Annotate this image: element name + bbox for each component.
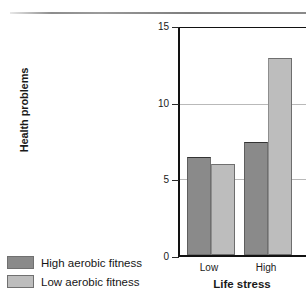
legend-item-high-aerobic-fitness: High aerobic fitness <box>7 254 147 271</box>
y-tick-mark-5 <box>172 180 179 181</box>
legend-label-high-fitness: High aerobic fitness <box>41 257 142 269</box>
x-tick-label-low: Low <box>179 262 239 273</box>
bar-high-stress-low-fitness <box>268 58 292 255</box>
bar-low-stress-high-fitness <box>187 157 211 255</box>
bar-low-stress-low-fitness <box>211 164 235 255</box>
legend-swatch-high-fitness <box>7 256 34 269</box>
plot-area <box>178 27 306 257</box>
y-tick-label-10: 10 <box>141 98 169 109</box>
x-axis-title: Life stress <box>178 278 306 290</box>
legend-swatch-low-fitness <box>7 275 34 288</box>
bar-high-stress-high-fitness <box>244 142 268 256</box>
y-tick-mark-0 <box>172 257 179 258</box>
chart-legend: High aerobic fitness Low aerobic fitness <box>7 254 147 292</box>
y-tick-mark-10 <box>172 104 179 105</box>
y-axis-title: Health problems <box>18 50 30 170</box>
legend-label-low-fitness: Low aerobic fitness <box>41 276 139 288</box>
x-tick-label-high: High <box>236 262 296 273</box>
y-tick-mark-15 <box>172 27 179 28</box>
y-tick-label-15: 15 <box>141 21 169 32</box>
y-tick-label-5: 5 <box>141 174 169 185</box>
legend-item-low-aerobic-fitness: Low aerobic fitness <box>7 273 147 290</box>
